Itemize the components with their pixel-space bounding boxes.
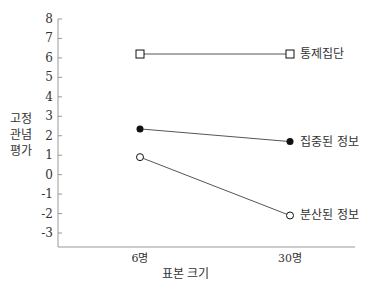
line-chart: -3-2-10123456786명30명 통제집단집중된 정보분산된 정보 [0, 0, 371, 295]
y-tick-label: 6 [45, 51, 53, 65]
filled-circle-marker [137, 125, 144, 132]
y-tick-label: 2 [45, 129, 53, 143]
y-tick-label: 7 [45, 31, 53, 45]
series-line [140, 157, 290, 215]
y-tick-label: 0 [45, 168, 53, 182]
series-layer: 통제집단집중된 정보분산된 정보 [136, 47, 359, 222]
y-tick-label: -1 [41, 187, 53, 201]
square-marker [136, 50, 144, 58]
y-axis-label-line-3: 평가 [10, 143, 44, 159]
filled-circle-marker [287, 138, 294, 145]
y-tick-label: 4 [45, 90, 53, 104]
square-marker [286, 50, 294, 58]
y-tick-label: 5 [45, 70, 53, 84]
y-axis-label: 고정 관념 평가 [10, 111, 44, 159]
y-axis-label-line-1: 고정 [10, 111, 44, 127]
y-tick-label: -2 [41, 207, 53, 221]
open-circle-marker [287, 212, 294, 219]
y-tick-label: 1 [45, 148, 53, 162]
x-axis-label: 표본 크기 [0, 264, 371, 281]
y-tick-label: 8 [45, 12, 53, 26]
series-1: 통제집단 [136, 47, 344, 61]
series-3: 분산된 정보 [137, 154, 359, 223]
y-tick-label: 3 [45, 109, 53, 123]
series-line [140, 129, 290, 142]
series-2: 집중된 정보 [137, 125, 359, 148]
y-tick-label: -3 [41, 226, 53, 240]
series-label: 분산된 정보 [300, 208, 359, 222]
series-label: 집중된 정보 [300, 135, 359, 149]
series-label: 통제집단 [300, 47, 344, 61]
open-circle-marker [137, 154, 144, 161]
y-axis-label-line-2: 관념 [10, 127, 44, 143]
